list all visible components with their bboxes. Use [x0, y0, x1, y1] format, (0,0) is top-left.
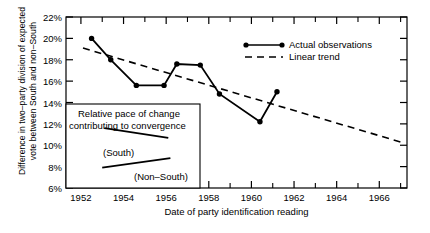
data-point: [274, 89, 279, 94]
legend-item-actual-observations: Actual observations: [289, 39, 372, 50]
data-point: [257, 119, 262, 124]
data-point: [108, 57, 113, 62]
south-label: (South): [103, 147, 134, 158]
inset-title-line1: Relative pace of change: [78, 108, 180, 119]
nonsouth-label: (Non–South): [134, 171, 188, 182]
plot-canvas: [0, 0, 430, 233]
legend-marks: [243, 42, 284, 57]
data-point: [174, 61, 179, 66]
data-point: [134, 83, 139, 88]
legend-item-linear-trend: Linear trend: [289, 51, 340, 62]
data-point: [161, 83, 166, 88]
chart-figure: Difference in two–party division of expe…: [0, 0, 430, 233]
data-point: [198, 62, 203, 67]
data-point: [217, 91, 222, 96]
inset-title-line2: contributing to convergence: [69, 120, 186, 131]
data-point: [89, 36, 94, 41]
